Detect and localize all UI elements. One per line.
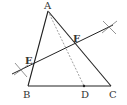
segment-ab xyxy=(28,11,48,86)
label-c: C xyxy=(109,89,117,100)
point-d-dot xyxy=(83,85,85,87)
label-f: F xyxy=(73,33,80,44)
bisector-line xyxy=(12,25,113,74)
label-b: B xyxy=(23,89,30,100)
arc-mark-right xyxy=(102,21,117,34)
segment-ac xyxy=(48,11,111,86)
geometry-diagram: A B C D E F xyxy=(0,0,127,105)
label-e: E xyxy=(25,55,33,66)
label-d: D xyxy=(81,89,89,100)
label-a: A xyxy=(43,0,52,11)
segment-ad-dashed xyxy=(48,11,84,86)
